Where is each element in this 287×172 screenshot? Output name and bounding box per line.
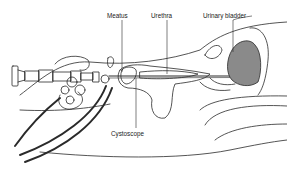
body-outline-lower — [40, 140, 287, 157]
label-urinary-bladder: Urinary bladder — [203, 13, 246, 19]
urinary-bladder-shape — [228, 41, 261, 86]
penis-outline — [118, 65, 210, 118]
tubing — [15, 86, 112, 162]
cystoscopy-diagram — [0, 0, 287, 172]
label-cystoscope: Cystoscope — [111, 131, 144, 137]
label-meatus: Meatus — [107, 13, 128, 19]
label-urethra: Urethra — [151, 13, 172, 19]
cystoscope-instrument — [12, 57, 240, 86]
